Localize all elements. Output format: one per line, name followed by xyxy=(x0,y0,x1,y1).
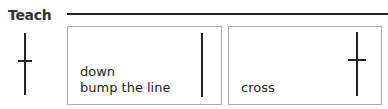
title-rule xyxy=(67,13,388,15)
step-label-line-2: bump the line xyxy=(80,80,170,96)
letter-t-model-icon xyxy=(18,33,32,95)
step-label-line-1: down xyxy=(80,64,170,80)
step-card-down: down bump the line xyxy=(67,26,222,105)
step-card-cross: cross xyxy=(228,26,382,105)
step-label: cross xyxy=(241,80,275,96)
vertical-stroke-icon xyxy=(199,33,205,97)
step-label: down bump the line xyxy=(80,64,170,96)
section-title: Teach xyxy=(8,7,51,23)
step-label-line-1: cross xyxy=(241,80,275,96)
cross-stroke-icon xyxy=(348,32,366,96)
